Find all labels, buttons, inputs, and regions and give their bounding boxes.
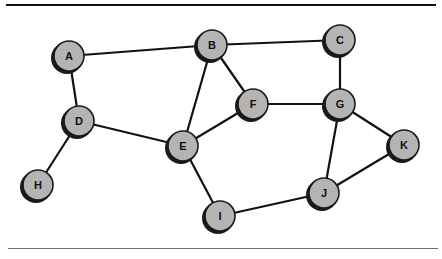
node-a: A [51,41,84,74]
graph-canvas: ABCDEFGHIJK [0,0,442,259]
nodes-layer: ABCDEFGHIJK [20,25,419,234]
node-label: D [75,115,83,127]
graph-figure: ABCDEFGHIJK [0,0,442,259]
node-label: A [65,50,73,62]
bottom-rule [8,248,438,249]
node-label: K [400,139,408,151]
node-c: C [322,25,355,58]
node-k: K [386,130,419,163]
node-label: C [336,34,344,46]
node-label: H [34,179,42,191]
node-j: J [306,178,339,211]
node-label: F [250,98,257,110]
edge-a-b [69,45,212,56]
node-h: H [20,170,53,203]
node-label: I [218,210,221,222]
edge-b-c [212,40,340,45]
node-f: F [235,89,268,122]
node-d: D [61,106,94,139]
node-label: E [179,140,186,152]
node-e: E [165,131,198,164]
node-g: G [322,89,355,122]
node-i: I [202,201,235,234]
node-label: J [321,187,327,199]
node-label: G [336,98,345,110]
node-label: B [208,39,216,51]
